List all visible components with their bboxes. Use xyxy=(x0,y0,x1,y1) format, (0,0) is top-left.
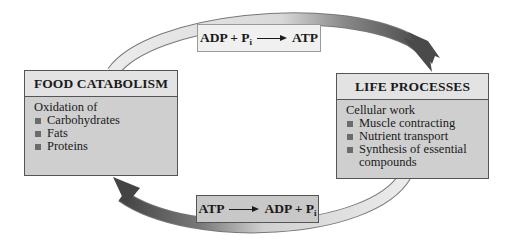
bullet-icon xyxy=(35,131,41,137)
reactant-atp: ATP xyxy=(198,201,224,217)
food-catabolism-title: FOOD CATABOLISM xyxy=(25,71,177,97)
reactant-adp-pi: ADP + Pi xyxy=(200,30,252,47)
list-item: Proteins xyxy=(34,140,169,153)
life-processes-list: Muscle contracting Nutrient transport Sy… xyxy=(346,117,480,169)
bullet-icon xyxy=(35,144,41,150)
life-processes-title: LIFE PROCESSES xyxy=(337,74,488,100)
product-adp-pi: ADP + Pi xyxy=(264,201,316,218)
life-processes-box: LIFE PROCESSES Cellular work Muscle cont… xyxy=(336,73,489,179)
bullet-icon xyxy=(347,147,353,153)
bullet-icon xyxy=(35,118,41,124)
list-item-continuation: compounds xyxy=(346,156,480,169)
food-catabolism-box: FOOD CATABOLISM Oxidation of Carbohydrat… xyxy=(24,70,178,176)
bullet-icon xyxy=(347,134,353,140)
reaction-arrow-icon xyxy=(229,204,259,214)
reaction-arrow-icon xyxy=(257,33,287,43)
bullet-icon xyxy=(347,121,353,127)
product-atp: ATP xyxy=(292,30,318,46)
atp-synthesis-equation: ADP + Pi ATP xyxy=(197,24,321,52)
atp-hydrolysis-equation: ATP ADP + Pi xyxy=(196,195,319,223)
food-catabolism-list: Carbohydrates Fats Proteins xyxy=(34,114,169,153)
